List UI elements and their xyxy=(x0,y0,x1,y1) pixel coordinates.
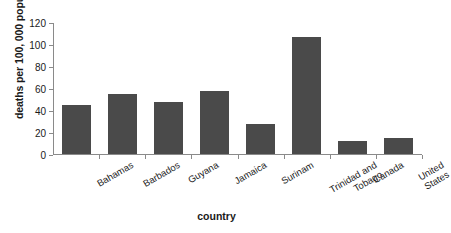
x-tick-label-line: Bahamas xyxy=(95,159,135,189)
x-tick-label: Canada xyxy=(371,160,405,186)
y-tick-mark xyxy=(49,155,53,156)
y-tick-mark xyxy=(49,133,53,134)
x-tick-mark xyxy=(330,155,331,159)
y-tick: 40 xyxy=(53,111,54,112)
y-axis-title: deaths per 100, 000 population xyxy=(13,0,27,119)
x-tick-mark xyxy=(145,155,146,159)
x-axis-title: country xyxy=(0,210,433,222)
x-tick-label: Bahamas xyxy=(95,160,135,189)
y-tick-mark xyxy=(49,45,53,46)
y-tick-label: 60 xyxy=(35,84,46,95)
x-tick-mark xyxy=(191,155,192,159)
x-tick-mark xyxy=(99,155,100,159)
x-tick-label-line: Surinam xyxy=(279,159,315,186)
bar xyxy=(338,141,367,154)
bar xyxy=(62,105,91,155)
bar xyxy=(154,102,183,154)
x-tick-label: UnitedStates xyxy=(417,160,451,192)
x-tick-label: Jamaica xyxy=(233,160,269,187)
x-tick-mark xyxy=(376,155,377,159)
x-tick-label-line: Jamaica xyxy=(233,159,269,186)
y-tick-mark xyxy=(49,89,53,90)
y-tick-label: 40 xyxy=(35,106,46,117)
y-tick-label: 100 xyxy=(29,40,46,51)
x-tick-label: Guyana xyxy=(187,160,221,186)
x-tick-label-line: Canada xyxy=(371,159,405,185)
x-tick-label: Surinam xyxy=(279,160,315,187)
bar xyxy=(246,124,275,154)
bar xyxy=(108,94,137,155)
plot-area: 020406080100120 xyxy=(53,23,422,155)
x-tick-label-line: Barbados xyxy=(141,159,182,189)
y-tick: 120 xyxy=(53,23,54,24)
x-tick-label-line: Guyana xyxy=(186,159,220,185)
y-tick-label: 0 xyxy=(40,150,46,161)
y-tick: 0 xyxy=(53,155,54,156)
y-tick: 80 xyxy=(53,67,54,68)
y-tick-mark xyxy=(49,23,53,24)
y-tick-label: 20 xyxy=(35,128,46,139)
bar xyxy=(200,91,229,154)
y-tick-mark xyxy=(49,67,53,68)
y-tick: 100 xyxy=(53,45,54,46)
bar xyxy=(384,138,413,155)
x-tick-mark xyxy=(422,155,423,159)
y-tick-label: 80 xyxy=(35,62,46,73)
bar xyxy=(292,37,321,154)
x-tick-mark xyxy=(284,155,285,159)
y-tick: 60 xyxy=(53,89,54,90)
y-tick-label: 120 xyxy=(29,18,46,29)
y-tick: 20 xyxy=(53,133,54,134)
x-tick-label: Barbados xyxy=(142,160,182,189)
y-tick-mark xyxy=(49,111,53,112)
x-tick-mark xyxy=(238,155,239,159)
